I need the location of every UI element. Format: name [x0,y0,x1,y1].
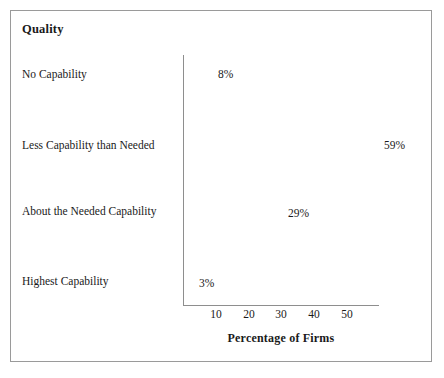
x-tick-label-40: 40 [301,308,327,320]
category-label-less-capability-than-needed: Less Capability than Needed [22,139,155,151]
category-label-about-the-needed-capability: About the Needed Capability [22,205,156,217]
category-label-highest-capability: Highest Capability [22,275,109,287]
bar-less-capability-than-needed [184,130,377,165]
value-label-about-the-needed-capability: 29% [288,207,309,219]
x-tick-label-20: 20 [236,308,262,320]
bar-no-capability [184,62,210,88]
x-axis-title: Percentage of Firms [183,331,379,346]
x-tick-label-30: 30 [268,308,294,320]
plot-area: No Capability Less Capability than Neede… [0,0,444,378]
x-tick-label-50: 50 [334,308,360,320]
y-axis-line [183,55,184,305]
bar-about-the-needed-capability [184,200,279,231]
x-tick-label-10: 10 [203,308,229,320]
value-label-highest-capability: 3% [199,277,214,289]
value-label-less-capability-than-needed: 59% [384,139,405,151]
bar-highest-capability [184,270,194,303]
x-axis-line [183,305,379,306]
value-label-no-capability: 8% [218,68,233,80]
category-label-no-capability: No Capability [22,68,87,80]
chart-figure: Quality No Capability Less Capability th… [0,0,444,378]
